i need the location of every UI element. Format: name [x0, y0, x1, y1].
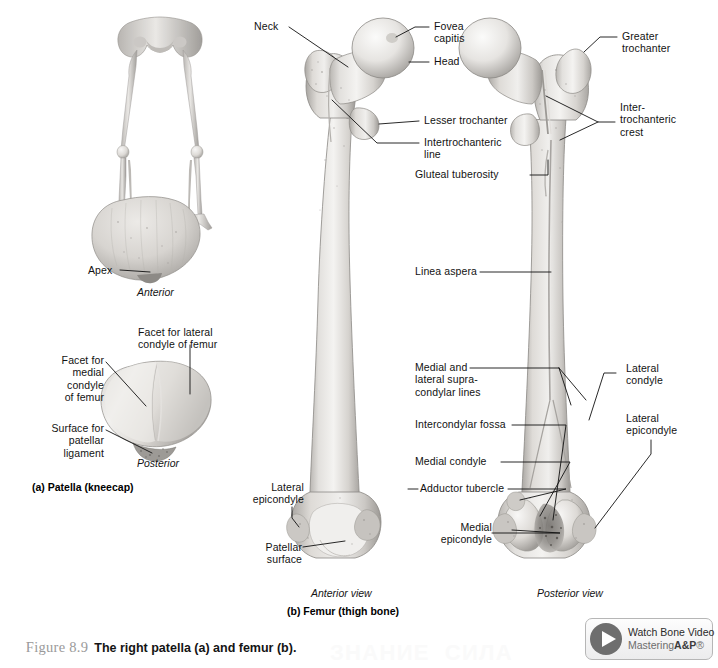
- figure-number: Figure 8.9: [26, 639, 89, 655]
- label-supracondylar-lines: Medial and lateral supra- condylar lines: [415, 361, 481, 398]
- play-icon[interactable]: [589, 622, 623, 656]
- label-intertrochanteric-line: Intertrochanteric line: [424, 136, 502, 161]
- femur-posterior-image: [459, 18, 596, 558]
- label-greater-trochanter: Greater trochanter: [622, 30, 670, 55]
- video-button-text: Watch Bone Video MasteringA&P®: [628, 626, 714, 652]
- label-part-b-femur: (b) Femur (thigh bone): [287, 605, 399, 617]
- label-adductor-tubercle: Adductor tubercle: [420, 482, 504, 494]
- femur-anterior-image: [287, 18, 414, 558]
- label-medial-condyle: Medial condyle: [415, 455, 487, 467]
- label-lateral-epicondyle-right: Lateral epicondyle: [626, 412, 677, 437]
- figure-8-9: ЗНАНИЕ СИЛА Apex Anterior Facet for late…: [0, 0, 718, 668]
- figure-caption: Figure 8.9The right patella (a) and femu…: [8, 620, 296, 668]
- label-patellar-surface: Patellar surface: [238, 541, 302, 566]
- label-facet-lateral-condyle: Facet for lateral condyle of femur: [138, 326, 217, 351]
- label-head: Head: [434, 55, 460, 67]
- label-neck: Neck: [254, 20, 278, 32]
- label-patella-anterior-view: Anterior: [137, 286, 174, 298]
- label-linea-aspera: Linea aspera: [415, 265, 477, 277]
- label-femur-anterior-view: Anterior view: [311, 587, 372, 599]
- label-part-a-patella: (a) Patella (kneecap): [32, 481, 134, 493]
- ap-brand: A&P: [674, 639, 696, 651]
- label-lateral-epicondyle-left: Lateral epicondyle: [238, 481, 304, 506]
- patella-posterior-image: [101, 361, 211, 461]
- label-medial-epicondyle: Medial epicondyle: [412, 521, 492, 546]
- label-intercondylar-fossa: Intercondylar fossa: [415, 418, 506, 430]
- label-apex: Apex: [88, 264, 112, 276]
- anatomy-illustration: [0, 0, 718, 668]
- label-femur-posterior-view: Posterior view: [537, 587, 603, 599]
- watch-bone-video-button[interactable]: Watch Bone Video MasteringA&P®: [585, 618, 713, 660]
- label-facet-medial-condyle: Facet for medial condyle of femur: [10, 354, 104, 404]
- label-intertrochanteric-crest: Inter- trochanteric crest: [620, 101, 676, 138]
- video-button-line1: Watch Bone Video: [628, 626, 714, 639]
- video-button-line2: MasteringA&P®: [628, 639, 714, 652]
- label-lateral-condyle: Lateral condyle: [626, 362, 663, 387]
- figure-caption-text: The right patella (a) and femur (b).: [94, 641, 296, 655]
- mastering-word: Mastering: [628, 639, 674, 651]
- label-gluteal-tuberosity: Gluteal tuberosity: [415, 168, 499, 180]
- label-lesser-trochanter: Lesser trochanter: [424, 114, 508, 126]
- label-surface-patellar-ligament: Surface for patellar ligament: [8, 422, 104, 459]
- label-patella-posterior-view: Posterior: [137, 457, 179, 469]
- label-fovea-capitis: Fovea capitis: [434, 20, 465, 45]
- registered-mark: ®: [696, 639, 704, 651]
